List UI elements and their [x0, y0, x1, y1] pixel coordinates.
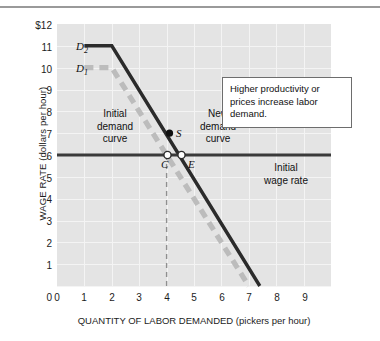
y-tick-9: 9	[12, 85, 52, 96]
series-label-d1: D1	[76, 62, 88, 77]
callout-annotation: Higher productivity or prices increase l…	[222, 77, 352, 128]
x-axis-ticks: 0 1 2 3 4 5 6 7 8 9	[0, 292, 380, 308]
y-tick-12: $12	[12, 20, 52, 31]
initial-demand-curve-label: Initial demand curve	[83, 108, 147, 146]
plot-area: D2 D1 Initial demand curve New demand cu…	[57, 24, 331, 286]
x-tick-3: 3	[127, 292, 151, 303]
initial-wage-rate-label: Initial wage rate	[253, 162, 319, 187]
y-tick-5: 5	[12, 173, 52, 184]
point-c-label: C	[161, 158, 168, 170]
figure-top-rule	[0, 6, 380, 8]
x-tick-6: 6	[210, 292, 234, 303]
point-e-label: E	[188, 158, 195, 170]
x-tick-8: 8	[265, 292, 289, 303]
point-e-marker	[178, 151, 185, 158]
point-s-marker	[166, 130, 173, 137]
x-tick-9: 9	[293, 292, 317, 303]
y-tick-10: 10	[12, 64, 52, 75]
x-tick-1: 1	[72, 292, 96, 303]
economics-figure: WAGE RATE (dollars per hour) $12 11 10 9…	[0, 0, 380, 341]
x-tick-7: 7	[237, 292, 261, 303]
x-tick-0: 0	[45, 292, 69, 303]
y-tick-11: 11	[12, 42, 52, 53]
x-axis-title: QUANTITY OF LABOR DEMANDED (pickers per …	[57, 315, 331, 326]
y-tick-8: 8	[12, 107, 52, 118]
x-tick-4: 4	[155, 292, 179, 303]
y-tick-4: 4	[12, 194, 52, 205]
y-tick-2: 2	[12, 238, 52, 249]
demand-curves-svg	[57, 24, 331, 286]
gridline-h-0	[57, 286, 331, 287]
y-axis-ticks: $12 11 10 9 8 7 6 5 4 3 2 1 0	[10, 0, 52, 341]
x-tick-5: 5	[182, 292, 206, 303]
y-tick-1: 1	[12, 260, 52, 271]
series-label-d2: D2	[76, 40, 88, 55]
point-s-label: S	[176, 127, 182, 139]
y-tick-7: 7	[12, 129, 52, 140]
y-tick-3: 3	[12, 216, 52, 227]
x-tick-2: 2	[100, 292, 124, 303]
y-tick-6: 6	[12, 151, 52, 162]
